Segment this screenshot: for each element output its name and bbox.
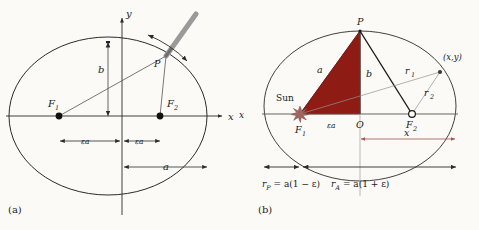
focus-2-marker-b xyxy=(409,111,416,118)
focal-left-label-a: εa xyxy=(81,137,90,146)
semi-minor-tick-top xyxy=(106,41,110,43)
string-f1-to-p xyxy=(59,56,166,116)
point-p-marker-b xyxy=(358,29,361,32)
focus-1-sub-b: 1 xyxy=(302,130,306,138)
focus-1-marker-a xyxy=(56,113,63,120)
radius-1-label: r xyxy=(405,66,410,76)
perihelion-formula: rP = a(1 − ε) xyxy=(262,179,320,192)
focus-1-sub-a: 1 xyxy=(55,104,59,112)
side-a-label: a xyxy=(317,64,323,75)
axis-y-label-a: y xyxy=(125,8,132,19)
point-xy-marker xyxy=(438,70,442,74)
edge-axis-label-b: x xyxy=(239,110,244,120)
ellipse-diagram-svg: x y F 1 F 2 P b εa εa a (a) xyxy=(0,0,479,230)
semi-minor-label-a: b xyxy=(98,64,104,75)
panel-b-group: Sun F 1 F 2 O P a b r 1 r 2 (x,y) εa x r… xyxy=(239,16,462,215)
point-p-label-a: P xyxy=(153,58,161,69)
focus-2-marker-a xyxy=(157,113,164,120)
radius-2-label: r xyxy=(424,88,429,98)
focus-2-sub-a: 2 xyxy=(173,104,178,112)
sun-label: Sun xyxy=(276,93,294,103)
radius-2-sub: 2 xyxy=(429,93,434,101)
axis-x-label-a: x xyxy=(228,111,234,122)
semi-major-label-a: a xyxy=(163,161,169,172)
panel-b-caption: (b) xyxy=(258,204,272,215)
figure-container: x y F 1 F 2 P b εa εa a (a) xyxy=(0,0,479,230)
center-label-b: O xyxy=(356,119,364,130)
panel-a-caption: (a) xyxy=(8,204,22,215)
string-p-to-f2 xyxy=(160,56,166,116)
focal-label-b: εa xyxy=(327,121,336,130)
point-xy-label: (x,y) xyxy=(443,52,462,62)
focus-1-label-b: F xyxy=(294,124,302,135)
focus-2-sub-b: 2 xyxy=(412,125,417,133)
x-dimension-label: x xyxy=(404,127,410,138)
side-b-label: b xyxy=(366,68,372,79)
focal-right-label-a: εa xyxy=(135,137,144,146)
panel-a-group: x y F 1 F 2 P b εa εa a (a) xyxy=(6,8,234,215)
point-p-label-b: P xyxy=(356,16,364,27)
radius-1-sub: 1 xyxy=(411,71,415,79)
